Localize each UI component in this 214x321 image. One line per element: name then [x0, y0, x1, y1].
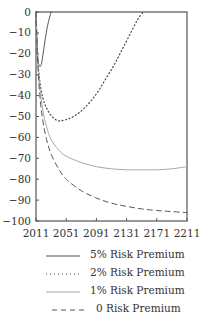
- y-tick-label: −20: [9, 47, 31, 59]
- legend-swatch-solid: [46, 252, 80, 260]
- legend-item-5pct: 5% Risk Premium: [0, 248, 214, 264]
- y-tick-label: −50: [9, 110, 31, 122]
- plot-frame: [36, 12, 187, 221]
- legend-swatch-dotted: [46, 270, 80, 278]
- y-tick-label: −70: [9, 152, 31, 164]
- x-tick-label: 2051: [53, 227, 80, 239]
- legend-label: 2% Risk Premium: [90, 266, 185, 278]
- legend-swatch-light: [46, 288, 80, 296]
- series-line: [36, 12, 51, 66]
- legend-swatch-dashed: [52, 306, 86, 314]
- legend-item-0pct: 0 Risk Premium: [0, 302, 214, 318]
- series-lines: [36, 12, 187, 213]
- legend-label: 0 Risk Premium: [96, 302, 181, 314]
- y-tick-label: −90: [9, 194, 31, 206]
- legend-label: 1% Risk Premium: [90, 284, 185, 296]
- y-tick-label: −40: [9, 89, 31, 101]
- series-line: [36, 12, 187, 170]
- x-tick-label: 2091: [83, 227, 110, 239]
- series-line: [36, 12, 143, 121]
- y-tick-label: −10: [9, 26, 31, 38]
- y-tick-label: 0: [24, 6, 31, 18]
- x-tick-label: 2011: [23, 227, 50, 239]
- y-tick-label: −80: [9, 173, 31, 185]
- plot-border: [36, 12, 187, 221]
- legend-item-1pct: 1% Risk Premium: [0, 284, 214, 300]
- x-tick-label: 2211: [174, 227, 201, 239]
- y-axis: 0−10−20−30−40−50−60−70−80−90−100: [2, 6, 39, 227]
- legend-item-2pct: 2% Risk Premium: [0, 266, 214, 282]
- series-line: [36, 12, 187, 213]
- y-tick-label: −60: [9, 131, 31, 143]
- y-tick-label: −30: [9, 68, 31, 80]
- x-tick-label: 2171: [143, 227, 170, 239]
- x-tick-label: 2131: [113, 227, 140, 239]
- line-chart: 0−10−20−30−40−50−60−70−80−90−100 2011205…: [0, 0, 214, 248]
- legend-label: 5% Risk Premium: [90, 248, 185, 260]
- y-tick-label: −100: [2, 215, 31, 227]
